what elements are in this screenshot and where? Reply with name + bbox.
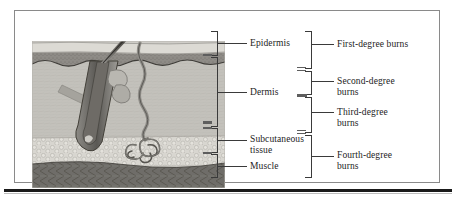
depth-mark-epidermal-dermal [203, 54, 212, 56]
depth-mark-subcutaneous-muscle [203, 152, 212, 154]
bracket-second-degree [305, 71, 312, 95]
bracket-muscle [211, 154, 218, 178]
label-epidermis: Epidermis [250, 38, 290, 49]
tick-epidermis [218, 43, 247, 44]
bracket-epidermis [211, 31, 218, 56]
label-second-degree: Second-degree burns [337, 76, 395, 98]
depth-mark-mid-dermis [203, 121, 212, 124]
figure-frame: Epidermis Dermis Subcutaneous tissue Mus… [14, 10, 440, 183]
label-subcutaneous: Subcutaneous tissue [250, 134, 304, 156]
bracket-subcutaneous [211, 128, 218, 153]
tick-dermis [218, 92, 247, 93]
tick-third-degree [312, 112, 334, 113]
bottom-rule-hairline [4, 193, 452, 194]
label-muscle: Muscle [250, 161, 279, 172]
bracket-third-degree [305, 97, 312, 133]
burn-boundary-third-fourth [297, 130, 306, 131]
skin-cross-section-illustration [32, 41, 225, 188]
tick-muscle [218, 166, 247, 167]
tick-fourth-degree [312, 156, 334, 157]
burn-boundary-first-second [297, 67, 306, 68]
bracket-dermis [211, 57, 218, 127]
burn-boundary-third-fourth-b [297, 133, 306, 134]
bracket-fourth-degree [305, 135, 312, 178]
burn-boundary-second-third [297, 94, 307, 97]
tick-first-degree [312, 44, 334, 45]
depth-mark-dermal-subcutaneous [203, 127, 212, 129]
tick-second-degree [312, 81, 334, 82]
label-fourth-degree: Fourth-degree burns [337, 150, 392, 172]
bracket-first-degree [305, 31, 312, 69]
bottom-rule [4, 189, 452, 192]
label-first-degree: First-degree burns [337, 39, 408, 50]
tick-subcutaneous [218, 140, 247, 141]
label-third-degree: Third-degree burns [337, 107, 388, 129]
burn-boundary-first-second-b [297, 70, 306, 71]
label-dermis: Dermis [250, 87, 279, 98]
